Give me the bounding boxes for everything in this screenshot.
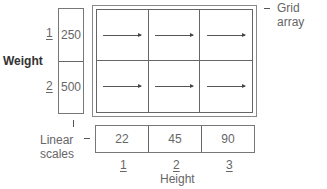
- grid-array: [92, 5, 257, 117]
- weight-index-2: 2: [46, 79, 53, 93]
- up-arrow-icon: [73, 120, 74, 127]
- weight-index-1: 1: [46, 26, 53, 40]
- grid-cell: [97, 10, 149, 61]
- grid-cell: [97, 61, 149, 112]
- grid-cell: [200, 10, 252, 61]
- grid-cell: [200, 61, 252, 112]
- grid-array-label: Grid array: [277, 1, 327, 29]
- right-arrow-icon: [207, 35, 245, 36]
- height-index-2: 2: [173, 158, 180, 172]
- height-index-1: 1: [120, 158, 127, 172]
- weight-title: Weight: [3, 54, 43, 68]
- right-arrow-icon: [84, 138, 90, 139]
- height-linear-scale: 22 45 90: [95, 125, 255, 153]
- grid-cell: [149, 10, 201, 61]
- height-scale-cell: 45: [149, 126, 202, 152]
- right-arrow-icon: [103, 86, 141, 87]
- left-arrow-icon: [264, 8, 270, 9]
- right-arrow-icon: [155, 35, 193, 36]
- height-title: Height: [160, 172, 195, 186]
- weight-scale-cell: 500: [59, 61, 83, 113]
- weight-linear-scale: 250 500: [58, 8, 84, 114]
- height-index-3: 3: [226, 158, 233, 172]
- linear-label-line: Linear: [40, 133, 74, 147]
- weight-scale-cell: 250: [59, 9, 83, 62]
- grid-cell: [149, 61, 201, 112]
- height-scale-cell: 22: [96, 126, 149, 152]
- linear-scales-label: Linear scales: [40, 133, 74, 161]
- right-arrow-icon: [207, 86, 245, 87]
- scales-label-line: scales: [40, 147, 74, 161]
- right-arrow-icon: [155, 86, 193, 87]
- height-scale-cell: 90: [202, 126, 254, 152]
- right-arrow-icon: [103, 35, 141, 36]
